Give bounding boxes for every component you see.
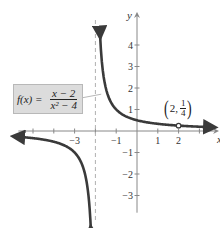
- x-tick-label: −1: [111, 135, 122, 146]
- function-name: f(x) =: [17, 93, 42, 105]
- function-fraction: x − 2 x² − 4: [48, 88, 79, 111]
- x-tick-label: 1: [155, 135, 160, 146]
- open-circle-hole: [176, 123, 181, 128]
- x-tick-label: −3: [69, 135, 80, 146]
- left-branch-curve: [17, 137, 91, 228]
- y-tick-label: 1: [128, 104, 133, 115]
- label-callout-line: [81, 94, 101, 98]
- y-tick-label: 2: [128, 83, 133, 94]
- y-axis-label: y: [126, 9, 132, 21]
- x-tick-label: 2: [176, 135, 181, 146]
- point-y-fraction: 1 4: [180, 99, 187, 118]
- y-tick-label: −2: [122, 169, 133, 180]
- right-branch-curve: [100, 33, 211, 127]
- y-tick-label: −3: [122, 190, 133, 201]
- function-label-box: f(x) = x − 2 x² − 4: [13, 84, 83, 114]
- point-x: 2,: [170, 102, 178, 114]
- y-tick-label: 3: [128, 61, 133, 72]
- close-paren: ): [187, 98, 192, 118]
- hole-point-label: ( 2, 1 4 ): [163, 98, 193, 118]
- function-denominator: x² − 4: [48, 100, 79, 111]
- y-tick-label: 4: [128, 40, 133, 51]
- hole-point: [176, 123, 181, 128]
- x-axis-label: x: [216, 133, 220, 145]
- y-tick-label: −1: [122, 147, 133, 158]
- open-paren: (: [164, 98, 169, 118]
- function-numerator: x − 2: [50, 88, 77, 100]
